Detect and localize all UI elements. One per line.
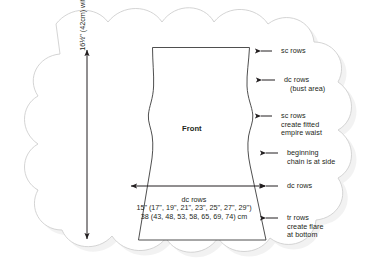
annotation-line: sc rows xyxy=(281,47,306,56)
annotation-tr-rows-flare: tr rows create flare at bottom xyxy=(287,214,324,240)
annotation-dc-rows-bust: dc rows (bust area) xyxy=(284,76,325,93)
annotation-line: (bust area) xyxy=(284,85,325,94)
annotation-line: empire waist xyxy=(281,129,322,138)
annotation-dc-rows-skirt: dc rows xyxy=(287,182,312,191)
annotation-sc-rows-top: sc rows xyxy=(281,47,306,56)
diagram-page: 16½" (42cm) without straps (all sizes) F… xyxy=(0,0,370,279)
callout-arrows xyxy=(261,51,278,218)
width-centimeters-label: 38 (43, 48, 53, 58, 65, 69, 74) cm xyxy=(113,213,275,221)
annotation-line: dc rows xyxy=(287,182,312,191)
width-dimension-label: dc rows 15" (17", 19", 21", 23", 25", 27… xyxy=(113,196,275,221)
annotation-line: at bottom xyxy=(287,231,324,240)
piece-label-front: Front xyxy=(182,125,202,134)
annotation-sc-rows-waist: sc rows create fitted empire waist xyxy=(281,112,322,138)
height-dimension-label: 16½" (42cm) without straps (all sizes) xyxy=(78,0,87,74)
annotation-beginning-chain: beginning chain is at side xyxy=(287,149,335,166)
annotation-line: chain is at side xyxy=(287,158,335,167)
